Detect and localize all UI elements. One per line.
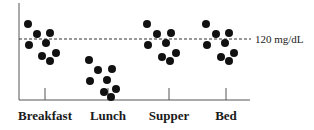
data-point-supper [153, 30, 161, 38]
data-point-bed [225, 29, 233, 37]
data-point-bed [221, 39, 229, 47]
data-points [24, 20, 238, 101]
data-point-lunch [107, 93, 115, 101]
data-point-breakfast [46, 29, 54, 37]
data-point-bed [202, 20, 210, 28]
data-point-bed [230, 49, 238, 57]
data-point-supper [158, 53, 166, 61]
data-point-breakfast [24, 20, 32, 28]
data-point-bed [212, 30, 220, 38]
data-point-supper [143, 20, 151, 28]
data-point-lunch [85, 56, 93, 64]
data-point-lunch [112, 85, 120, 93]
data-point-breakfast [33, 30, 41, 38]
category-label-bed: Bed [215, 108, 237, 123]
data-point-bed [217, 53, 225, 61]
data-point-breakfast [25, 41, 33, 49]
data-point-breakfast [38, 52, 46, 60]
reference-label: 120 mg/dL [255, 33, 304, 45]
category-label-supper: Supper [149, 108, 190, 123]
data-point-supper [167, 29, 175, 37]
data-point-breakfast [52, 49, 60, 57]
data-point-lunch [103, 76, 111, 84]
data-point-breakfast [46, 57, 54, 65]
data-point-breakfast [42, 39, 50, 47]
data-point-bed [225, 57, 233, 65]
data-point-lunch [100, 88, 108, 96]
data-point-supper [144, 41, 152, 49]
category-label-lunch: Lunch [90, 108, 127, 123]
data-point-supper [172, 49, 180, 57]
data-point-supper [166, 57, 174, 65]
category-label-breakfast: Breakfast [18, 108, 73, 123]
data-point-lunch [94, 66, 102, 74]
data-point-bed [203, 41, 211, 49]
glucose-dot-chart: 120 mg/dL Breakfast Lunch Supper Bed [0, 0, 314, 130]
data-point-lunch [108, 65, 116, 73]
data-point-supper [162, 39, 170, 47]
data-point-lunch [86, 77, 94, 85]
